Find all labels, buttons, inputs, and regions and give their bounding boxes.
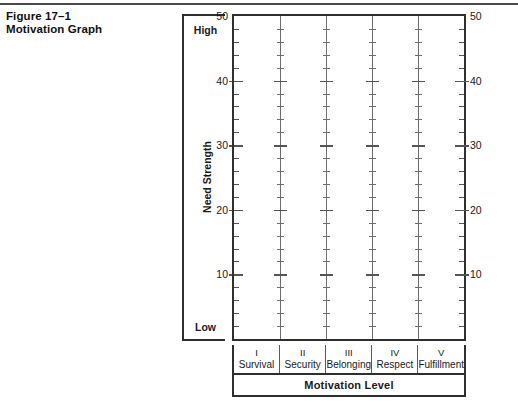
gridline-tick-minor [323, 55, 330, 56]
axis-tick-right-minor [459, 249, 464, 250]
gridline-tick-minor [277, 55, 284, 56]
y-tick-label-left-50: 50 [198, 11, 228, 21]
y-tick-label-right-20: 20 [470, 205, 500, 215]
axis-tick-left-minor [234, 55, 239, 56]
gridline-tick-minor [369, 132, 376, 133]
gridline-tick-minor [415, 68, 422, 69]
y-tick-label-right-40: 40 [470, 76, 500, 86]
gridline-tick-major [366, 274, 379, 275]
axis-tick-right-minor [459, 106, 464, 107]
gridline-tick-minor [323, 313, 330, 314]
gridline-tick-minor [323, 171, 330, 172]
y-tick-label-left-40: 40 [198, 76, 228, 86]
gridline-tick-minor [277, 223, 284, 224]
gridline-tick-minor [415, 300, 422, 301]
gridline-tick-minor [323, 197, 330, 198]
gridline-tick-major [320, 210, 333, 211]
gridline-tick-minor [277, 326, 284, 327]
axis-tick-right-minor [459, 132, 464, 133]
category-numeral: III [345, 347, 353, 359]
axis-tick-right-minor [459, 197, 464, 198]
gridline-tick-minor [323, 223, 330, 224]
y-tick-leader-right [460, 81, 469, 82]
gridline-tick-minor [277, 287, 284, 288]
gridline-tick-minor [323, 287, 330, 288]
axis-tick-left-minor [234, 223, 239, 224]
axis-tick-left-minor [234, 68, 239, 69]
x-axis-category-cell: IIIBelonging [326, 345, 372, 373]
x-axis-category-cell: IISecurity [280, 345, 326, 373]
figure-title: Motivation Graph [6, 23, 176, 36]
axis-tick-left-minor [234, 42, 239, 43]
axis-tick-right-minor [459, 42, 464, 43]
figure-caption: Figure 17–1 Motivation Graph [6, 10, 176, 36]
category-name: Respect [377, 359, 414, 371]
y-tick-label-left-10: 10 [198, 269, 228, 279]
plot-gridlines [234, 16, 464, 339]
gridline-tick-minor [415, 94, 422, 95]
category-numeral: V [438, 347, 444, 359]
gridline-tick-minor [277, 249, 284, 250]
axis-tick-left-minor [234, 106, 239, 107]
x-axis-category-cell: VFulfillment [418, 345, 464, 373]
category-numeral: II [300, 347, 305, 359]
gridline-tick-major [320, 274, 333, 275]
gridline-tick-major [274, 145, 287, 146]
gridline-tick-minor [323, 261, 330, 262]
gridline-tick-minor [323, 68, 330, 69]
gridline-tick-minor [415, 158, 422, 159]
axis-tick-right-minor [459, 29, 464, 30]
category-numeral: I [255, 347, 258, 359]
axis-tick-left-major [234, 274, 243, 276]
axis-tick-left-minor [234, 313, 239, 314]
axis-tick-left-minor [234, 249, 239, 250]
axis-tick-right-minor [459, 326, 464, 327]
category-name: Security [285, 359, 321, 371]
gridline-tick-minor [369, 119, 376, 120]
axis-tick-right-minor [459, 94, 464, 95]
gridline-tick-minor [369, 171, 376, 172]
gridline-tick-minor [277, 29, 284, 30]
gridline-tick-minor [323, 94, 330, 95]
gridline-tick-minor [415, 55, 422, 56]
y-tick-label-right-10: 10 [470, 269, 500, 279]
top-divider-rule [0, 3, 518, 5]
gridline-tick-minor [415, 287, 422, 288]
axis-tick-left-minor [234, 326, 239, 327]
gridline-tick-minor [369, 249, 376, 250]
gridline-tick-minor [369, 236, 376, 237]
gridline-tick-minor [323, 106, 330, 107]
gridline-tick-minor [415, 197, 422, 198]
category-numeral: IV [390, 347, 399, 359]
gridline-tick-minor [415, 171, 422, 172]
gridline-vertical [418, 16, 419, 339]
axis-tick-left-minor [234, 29, 239, 30]
gridline-tick-minor [415, 261, 422, 262]
gridline-tick-minor [369, 184, 376, 185]
gridline-tick-minor [323, 29, 330, 30]
x-axis-category-row: ISurvivalIISecurityIIIBelongingIVRespect… [232, 345, 466, 375]
axis-tick-left-minor [234, 261, 239, 262]
gridline-tick-minor [277, 158, 284, 159]
gridline-tick-minor [277, 300, 284, 301]
gridline-tick-minor [415, 106, 422, 107]
gridline-tick-minor [369, 158, 376, 159]
gridline-tick-minor [323, 132, 330, 133]
gridline-tick-minor [369, 29, 376, 30]
gridline-tick-minor [369, 287, 376, 288]
gridline-tick-major [274, 210, 287, 211]
axis-tick-left-minor [234, 184, 239, 185]
axis-tick-right-minor [459, 287, 464, 288]
axis-tick-left-minor [234, 119, 239, 120]
axis-tick-right-minor [459, 55, 464, 56]
gridline-tick-minor [277, 94, 284, 95]
gridline-tick-minor [369, 55, 376, 56]
x-axis-title-bar: Motivation Level [232, 375, 466, 397]
x-axis-category-cell: IVRespect [372, 345, 418, 373]
gridline-tick-minor [277, 313, 284, 314]
axis-tick-right-minor [459, 236, 464, 237]
gridline-tick-minor [415, 223, 422, 224]
gridline-tick-minor [323, 300, 330, 301]
gridline-tick-minor [277, 261, 284, 262]
gridline-tick-minor [277, 197, 284, 198]
